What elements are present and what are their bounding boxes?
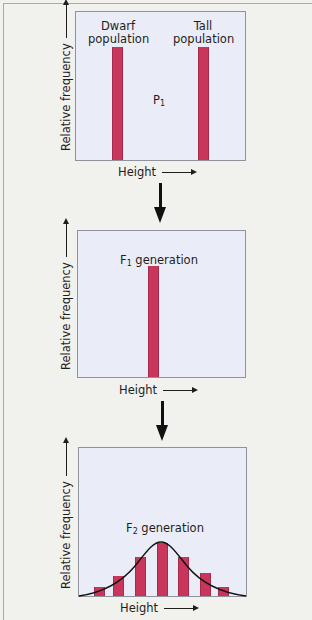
- f2-y-axis-label: Relative frequency: [59, 442, 73, 589]
- normal-distribution-curve: [0, 0, 312, 620]
- x-axis-arrow-icon: [164, 608, 194, 609]
- y-axis-arrow-icon: [66, 442, 67, 476]
- f2-x-axis-label: Height: [120, 601, 194, 615]
